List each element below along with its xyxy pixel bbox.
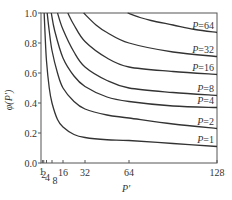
x-tick-label: 8 bbox=[53, 175, 58, 186]
series-label: P=64 bbox=[191, 20, 214, 31]
series-label: P=8 bbox=[196, 83, 214, 94]
series-label: P=1 bbox=[196, 134, 214, 145]
y-tick-label: 0.2 bbox=[25, 128, 38, 139]
x-axis-ticks: 1248163264128 bbox=[39, 160, 225, 186]
x-tick-label: 32 bbox=[80, 167, 90, 178]
y-axis-label: φ(P') bbox=[3, 89, 15, 110]
x-tick-label: 16 bbox=[58, 167, 68, 178]
y-tick-label: 1.0 bbox=[25, 8, 38, 19]
series-label: P=2 bbox=[196, 116, 214, 127]
x-tick-label: 64 bbox=[124, 167, 134, 178]
series-label: P=4 bbox=[196, 95, 214, 106]
series-label: P=32 bbox=[191, 44, 214, 55]
y-tick-label: 0.6 bbox=[25, 68, 38, 79]
x-tick-label: 4 bbox=[45, 172, 50, 183]
y-tick-label: 0.0 bbox=[25, 158, 38, 169]
y-tick-label: 0.4 bbox=[25, 98, 38, 109]
series-curves bbox=[44, 13, 217, 147]
x-tick-label: 128 bbox=[210, 167, 225, 178]
series-label: P=16 bbox=[191, 62, 214, 73]
y-tick-label: 0.8 bbox=[25, 38, 38, 49]
chart: 0.00.20.40.60.81.0 1248163264128 P=64P=3… bbox=[0, 0, 232, 200]
x-axis-label: P' bbox=[121, 183, 131, 194]
y-axis-ticks: 0.00.20.40.60.81.0 bbox=[25, 8, 42, 169]
